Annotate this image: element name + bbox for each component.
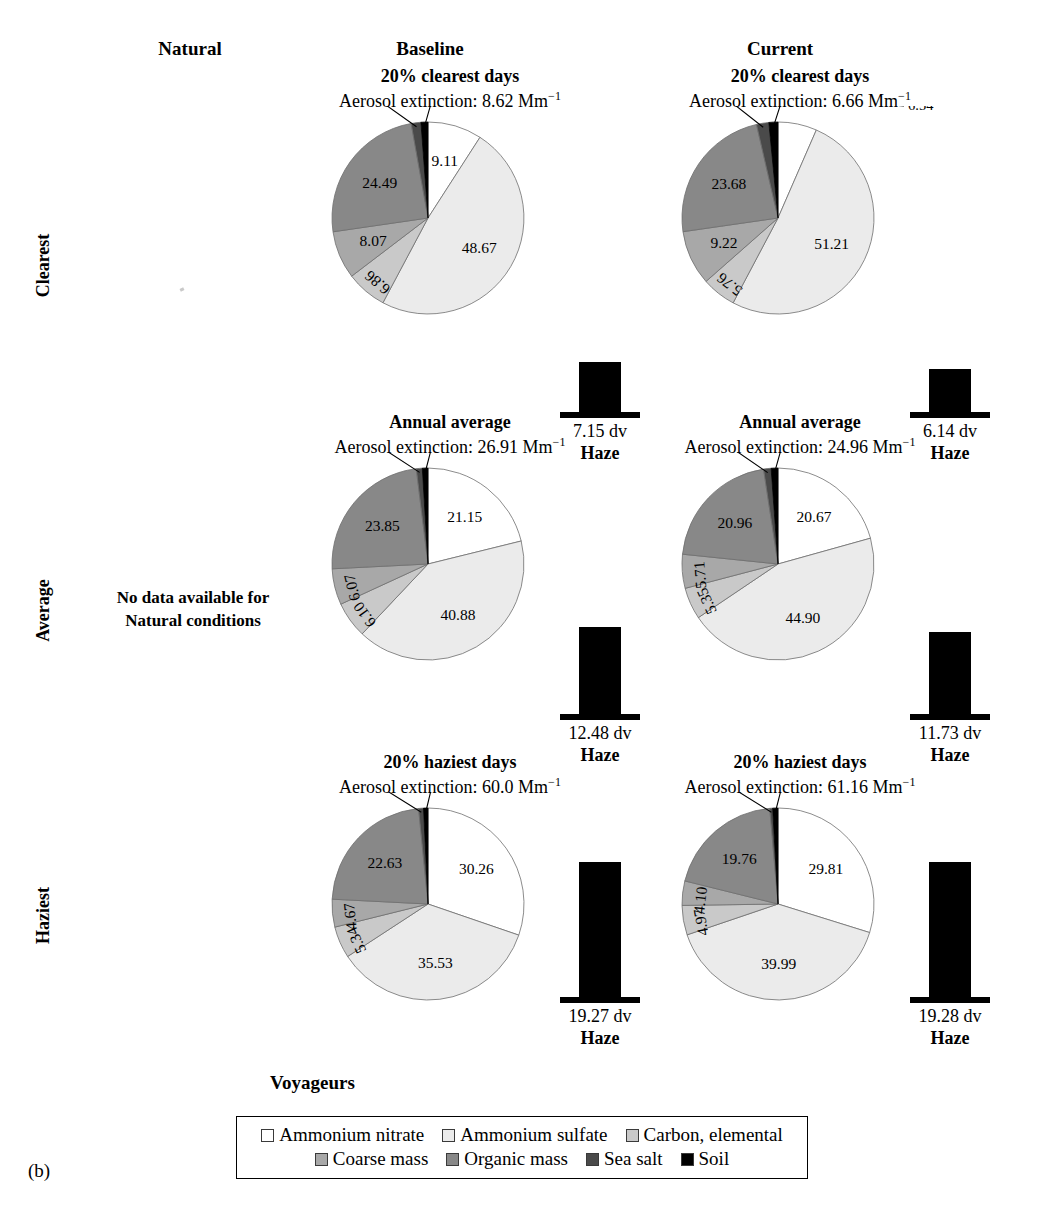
panel-title: 20% clearest days — [300, 66, 600, 87]
row-header-average: Average — [33, 551, 54, 671]
pie-slice-value-label: 51.21 — [814, 235, 849, 252]
pie-slice-value-label: 4.10 — [690, 885, 710, 914]
legend-item-label: Ammonium sulfate — [460, 1124, 607, 1146]
pie-slice-value-label: 20.67 — [797, 508, 832, 525]
panel-title: 20% haziest days — [300, 752, 600, 773]
pie-slice-value-label: 24.49 — [362, 174, 397, 191]
haze-bar — [929, 632, 971, 714]
haze-bar-plot — [890, 258, 1010, 418]
haze-bar-panel-current-haziest: 19.28 dvHaze — [890, 843, 1010, 1049]
legend-swatch-icon — [315, 1153, 328, 1166]
panel-title: 20% haziest days — [650, 752, 950, 773]
legend-item-label: Ammonium nitrate — [279, 1124, 424, 1146]
legend-item: Ammonium nitrate — [261, 1124, 424, 1146]
pie-slice-value-label: 44.90 — [785, 609, 820, 626]
pie-slice-value-label: 5.71 — [690, 561, 709, 589]
pie-slice-value-label: 21.15 — [447, 508, 482, 525]
column-header-current: Current — [685, 38, 875, 60]
legend-item-label: Coarse mass — [333, 1148, 429, 1170]
pie-slice-value-label: 4.67 — [340, 902, 360, 931]
pie-slice-value-label: 19.76 — [722, 850, 757, 867]
legend-swatch-icon — [681, 1153, 694, 1166]
pie-slice-value-label: 8.07 — [360, 232, 387, 249]
haze-bar-panel-baseline-clearest: 7.15 dvHaze — [540, 258, 660, 464]
haze-bar-baseline — [910, 997, 990, 1003]
figure-caption-label: (b) — [28, 1160, 50, 1182]
figure-panel-grid: Natural Baseline Current Clearest Averag… — [0, 0, 1053, 1223]
site-title: Voyageurs — [270, 1072, 355, 1094]
pie-slice-value-label: 0.82 — [325, 792, 350, 793]
legend-item-label: Carbon, elemental — [644, 1124, 783, 1146]
haze-bar-plot — [540, 258, 660, 418]
pie-slice-value-label: 22.63 — [367, 854, 402, 871]
haze-bar-panel-baseline-average: 12.48 dvHaze — [540, 560, 660, 766]
haze-bar-baseline — [560, 714, 640, 720]
pie-slice-value-label: 23.68 — [711, 175, 746, 192]
no-data-line-1: No data available for — [78, 587, 308, 610]
haze-bar-panel-baseline-haziest: 19.27 dvHaze — [540, 843, 660, 1049]
legend-swatch-icon — [442, 1129, 455, 1142]
haze-bar — [579, 862, 621, 997]
extinction-exponent: −1 — [548, 775, 561, 789]
extinction-exponent: −1 — [548, 89, 561, 103]
pie-slice-value-label: 9.22 — [710, 234, 737, 251]
pie-slice-value-label: 0.49 — [675, 792, 700, 793]
haze-caption: Haze — [890, 1028, 1010, 1049]
haze-bar-plot — [890, 560, 1010, 720]
legend-swatch-icon — [586, 1153, 599, 1166]
legend-item: Ammonium sulfate — [442, 1124, 607, 1146]
leader-line — [704, 106, 763, 127]
haze-bar-plot — [890, 843, 1010, 1003]
pie-slice-value-label: 2.07 — [675, 106, 700, 107]
legend-item: Carbon, elemental — [626, 1124, 783, 1146]
pie-slice-value-label: 20.96 — [717, 514, 752, 531]
pie-slice-value-label: 1.00 — [325, 452, 350, 453]
no-data-note: No data available for Natural conditions — [78, 587, 308, 633]
haze-bar-plot — [540, 843, 660, 1003]
legend-item: Soil — [681, 1148, 730, 1170]
legend-item-label: Sea salt — [604, 1148, 663, 1170]
panel-title: 20% clearest days — [650, 66, 950, 87]
leader-line — [704, 452, 768, 473]
scan-artifact-speck — [180, 287, 185, 291]
haze-bar-baseline — [910, 714, 990, 720]
pie-slice-value-label: 1.63 — [325, 106, 350, 107]
haze-bar-panel-current-average: 11.73 dvHaze — [890, 560, 1010, 766]
legend-swatch-icon — [626, 1129, 639, 1142]
leader-line — [354, 106, 417, 127]
pie-slice-value-label: 1.26 — [675, 452, 700, 453]
haze-bar — [579, 362, 621, 412]
pie-slice-value-label: 23.85 — [365, 517, 400, 534]
legend-box: Ammonium nitrateAmmonium sulfateCarbon, … — [236, 1116, 808, 1179]
extinction-exponent: −1 — [903, 775, 916, 789]
legend-item: Organic mass — [446, 1148, 568, 1170]
no-data-line-2: Natural conditions — [78, 610, 308, 633]
extinction-exponent: −1 — [898, 89, 911, 103]
extinction-exponent: −1 — [903, 435, 916, 449]
legend-item-label: Soil — [699, 1148, 730, 1170]
haze-bar — [929, 369, 971, 412]
legend-row-1: Ammonium nitrateAmmonium sulfateCarbon, … — [243, 1124, 801, 1146]
legend-swatch-icon — [261, 1129, 274, 1142]
pie-slice-value-label: 9.11 — [432, 152, 459, 169]
legend-item-label: Organic mass — [464, 1148, 568, 1170]
panel-title: Annual average — [300, 412, 600, 433]
haze-caption: Haze — [540, 1028, 660, 1049]
haze-value-label: 19.27 dv — [540, 1006, 660, 1027]
haze-value-label: 11.73 dv — [890, 723, 1010, 744]
pie-slice-value-label: 30.26 — [459, 860, 494, 877]
legend-row-2: Coarse massOrganic massSea saltSoil — [243, 1148, 801, 1170]
haze-bar — [579, 627, 621, 714]
column-header-baseline: Baseline — [335, 38, 525, 60]
haze-bar-panel-current-clearest: 6.14 dvHaze — [890, 258, 1010, 464]
legend-item: Coarse mass — [315, 1148, 429, 1170]
pie-slice-value-label: 6.54 — [908, 106, 934, 113]
pie-slice-value-label: 48.67 — [462, 239, 497, 256]
pie-slice-value-label: 29.81 — [808, 860, 843, 877]
column-header-natural: Natural — [100, 38, 280, 60]
haze-bar-baseline — [560, 997, 640, 1003]
haze-value-label: 19.28 dv — [890, 1006, 1010, 1027]
row-header-haziest: Haziest — [33, 856, 54, 976]
haze-bar-plot — [540, 560, 660, 720]
legend-swatch-icon — [446, 1153, 459, 1166]
